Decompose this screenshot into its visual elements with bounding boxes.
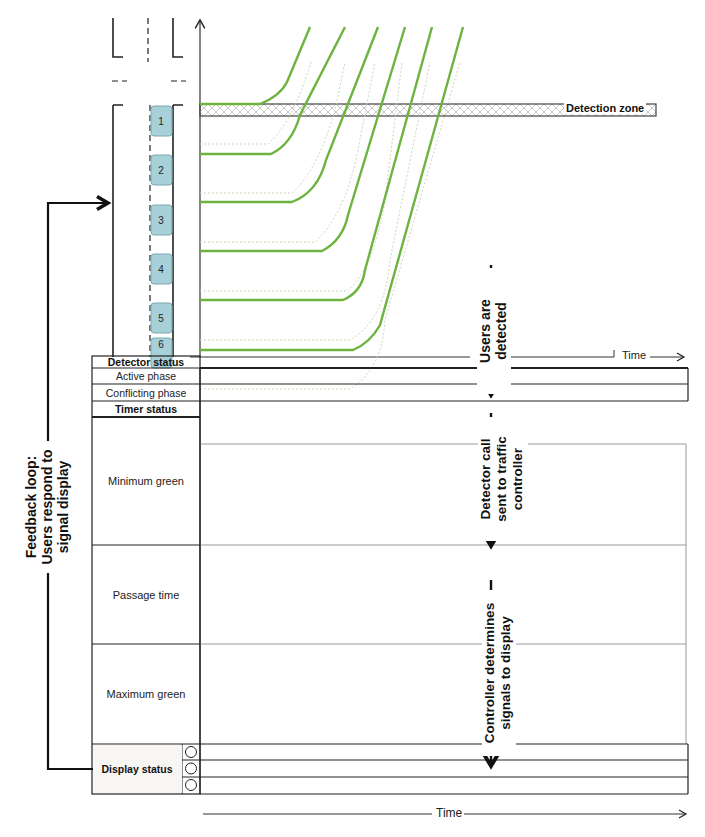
row-label-detector-status: Detector status: [92, 356, 200, 368]
users-detected-label: Users are detected: [477, 268, 511, 394]
vehicle-5-label: 5: [152, 313, 170, 324]
feedback-loop-label: Feedback loop: Users respond to signal d…: [23, 441, 73, 573]
time-axis-label-top: Time: [620, 349, 648, 361]
row-label-timer-status: Timer status: [92, 401, 200, 417]
vehicle-queue: [151, 106, 172, 368]
vehicle-1-label: 1: [152, 116, 170, 127]
intersection-road: [112, 18, 186, 357]
controller-determines-line-2: signals to display: [498, 593, 514, 753]
detector-call-line-1: Detector call: [478, 420, 494, 538]
vehicle-4-label: 4: [152, 264, 170, 275]
signal-heads: [186, 747, 197, 791]
row-label-conflicting-phase: Conflicting phase: [92, 384, 200, 401]
users-detected-line-2: detected: [493, 271, 509, 391]
timeline-grid: [200, 368, 688, 794]
vehicle-3-label: 3: [152, 215, 170, 226]
time-axis-label-bottom: Time: [434, 806, 464, 820]
row-label-maximum-green: Maximum green: [92, 644, 200, 744]
feedback-loop-line-2: Users respond to: [39, 444, 55, 570]
vehicle-6-label: 6: [152, 339, 170, 350]
vehicle-2-label: 2: [152, 165, 170, 176]
detector-call-line-3: controller: [510, 420, 526, 538]
feedback-loop-line-3: signal display: [55, 444, 71, 570]
row-label-passage-time: Passage time: [92, 545, 200, 644]
row-label-minimum-green: Minimum green: [92, 417, 200, 545]
controller-determines-label: Controller determines signals to display: [482, 590, 516, 756]
detector-call-line-2: sent to traffic: [494, 420, 510, 538]
vehicle-trajectories: [200, 27, 463, 350]
users-detected-line-1: Users are: [477, 271, 493, 391]
feedback-loop-line-1: Feedback loop:: [23, 444, 39, 570]
row-label-display-status: Display status: [92, 744, 182, 794]
controller-determines-line-1: Controller determines: [482, 593, 498, 753]
row-label-active-phase: Active phase: [92, 368, 200, 384]
detection-zone-label: Detection zone: [564, 102, 646, 114]
detector-call-label: Detector call sent to traffic controller: [478, 417, 528, 541]
